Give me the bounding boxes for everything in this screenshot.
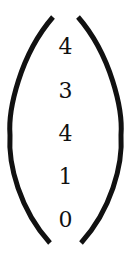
vector-entry-3: 4	[0, 123, 131, 145]
vector-entry-2: 3	[0, 80, 131, 102]
vector-entry-5: 0	[0, 209, 131, 231]
vector-entry-4: 1	[0, 166, 131, 188]
vector-entry-1: 4	[0, 36, 131, 58]
